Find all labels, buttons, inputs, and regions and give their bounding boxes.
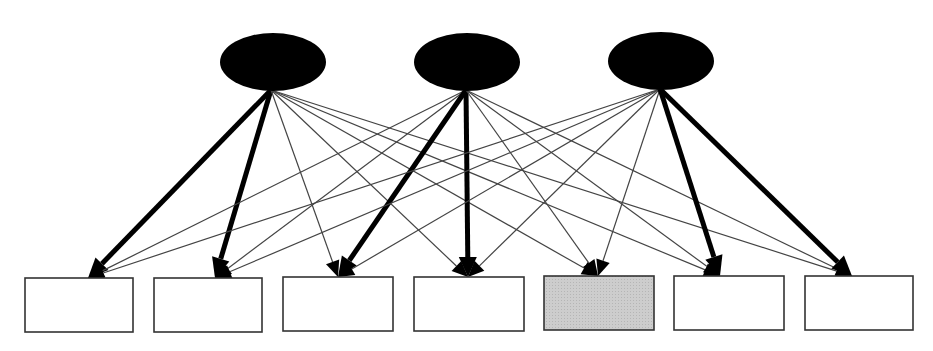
edges (88, 89, 852, 280)
edge-F2-X7 (466, 90, 852, 276)
latent-factor-F2 (414, 33, 520, 91)
indicator-box-X2 (154, 278, 262, 332)
latent-factor-F1 (220, 33, 326, 91)
edge-F2-X1 (88, 90, 466, 278)
edge-F2-X4 (459, 90, 477, 277)
latent-factors (220, 32, 714, 91)
indicator-box-X3 (283, 277, 393, 331)
edge-F3-X3 (338, 89, 660, 277)
latent-factor-F3 (608, 32, 714, 90)
arrowhead-icon (596, 259, 609, 276)
indicator-box-X6 (674, 276, 784, 330)
arrowhead-icon (326, 260, 339, 277)
indicator-box-X5 (544, 276, 654, 330)
edge-F1-X6 (271, 90, 720, 276)
edge-F1-X3 (271, 90, 339, 277)
edge-F3-X1 (88, 89, 660, 280)
factor-model-diagram (0, 0, 933, 351)
indicator-boxes (25, 276, 913, 332)
indicator-box-X7 (805, 276, 913, 330)
edge-F2-X5 (466, 90, 598, 276)
indicator-box-X1 (25, 278, 133, 332)
edge-F1-X5 (271, 90, 598, 276)
indicator-box-X4 (414, 277, 524, 331)
edge-F3-X5 (596, 89, 660, 276)
